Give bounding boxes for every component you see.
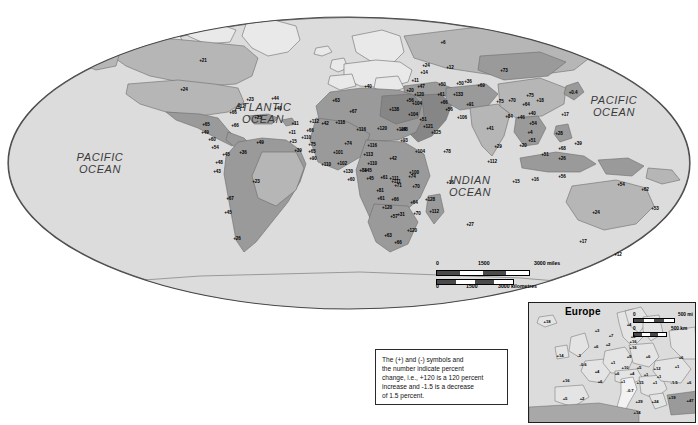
value-label: +49: [201, 131, 209, 136]
value-label: +49: [256, 141, 264, 146]
europe-value-label: +6: [615, 372, 620, 376]
value-label: +116: [356, 128, 366, 133]
value-label: +81: [376, 189, 384, 194]
map-scale-bar: 0 1500 3000 miles 0 1500 3000 kilometres: [436, 259, 554, 291]
value-label: +90: [309, 157, 317, 162]
value-label: +36: [464, 80, 472, 85]
value-label: +116: [367, 144, 377, 149]
value-label: +70: [413, 212, 421, 217]
eu-scale-mi-0: 0: [633, 312, 636, 317]
value-label: +133: [453, 93, 463, 98]
europe-value-label: +6: [687, 381, 692, 385]
value-label: +66: [231, 124, 239, 129]
value-label: +31: [397, 213, 405, 218]
value-label: +101: [333, 151, 343, 156]
value-label: +120: [414, 93, 424, 98]
europe-value-label: -0.7: [627, 389, 634, 393]
value-label: +54: [617, 183, 625, 188]
value-label: +40: [274, 107, 282, 112]
value-label: +45: [366, 177, 374, 182]
scale-miles-tick-1500: 1500: [478, 260, 490, 266]
value-label: +43: [213, 170, 221, 175]
value-label: +27: [466, 223, 474, 228]
value-label: +44: [271, 97, 279, 102]
value-label: +110: [321, 163, 331, 168]
value-label: +14: [420, 71, 428, 76]
europe-value-label: -0.6: [580, 363, 587, 367]
legend-line-5: of 1.5 percent.: [382, 391, 501, 400]
value-label: +42: [321, 122, 329, 127]
value-label: +24: [180, 88, 188, 93]
value-label: +68: [558, 147, 566, 152]
value-label: +12: [614, 253, 622, 258]
value-label: +61: [437, 93, 445, 98]
scale-miles-track: [436, 270, 530, 276]
value-label: +17: [579, 240, 587, 245]
value-label: +61: [380, 176, 388, 181]
europe-value-label: +1: [611, 361, 616, 365]
value-label: +41: [486, 127, 494, 132]
value-label: +120: [407, 229, 417, 234]
value-label: +74: [344, 142, 352, 147]
value-label: +70: [412, 185, 420, 190]
value-label: +26: [233, 237, 241, 242]
value-label: +121: [423, 125, 433, 130]
value-label: +11: [291, 122, 298, 127]
value-label: +66: [440, 101, 448, 106]
value-label: +20: [406, 89, 414, 94]
europe-value-label: +2: [606, 343, 611, 347]
value-label: +110: [301, 136, 311, 141]
europe-value-label: +3: [595, 329, 600, 333]
value-label: +45: [224, 211, 232, 216]
value-label: +51: [528, 139, 536, 144]
value-label: +120: [382, 206, 392, 211]
eu-scale-km-track: [633, 332, 667, 337]
value-label: +66: [391, 198, 399, 203]
europe-value-label: +6: [598, 380, 603, 384]
legend-line-4: increase and -1.5 is a decrease: [382, 382, 501, 391]
value-label: +21: [199, 59, 207, 64]
value-label: +45: [222, 153, 230, 158]
value-label: +63: [332, 99, 340, 104]
value-label: +25: [254, 116, 262, 121]
europe-value-label: +47: [687, 399, 694, 403]
value-label: +112: [429, 210, 439, 215]
europe-value-label: +29: [636, 400, 643, 404]
europe-value-label: +12: [654, 367, 661, 371]
scale-miles-unit: 3000 miles: [534, 260, 560, 266]
value-label: +100: [409, 171, 419, 176]
europe-value-label: +16: [630, 340, 637, 344]
europe-value-label: -3: [577, 354, 581, 358]
value-label: +63: [384, 234, 392, 239]
value-label: +12: [237, 105, 245, 110]
value-label: +128: [425, 198, 435, 203]
value-label: +15: [512, 180, 520, 185]
value-label: +71: [394, 184, 402, 189]
value-label: +74: [408, 175, 416, 180]
europe-value-label: +10: [622, 366, 629, 370]
value-label: +112: [309, 120, 319, 125]
eu-scale-km-500: 500 km: [671, 326, 687, 331]
europe-value-label: +16: [563, 379, 570, 383]
value-label: +48: [215, 161, 223, 166]
value-label: +39: [294, 149, 302, 154]
value-label: +130: [343, 170, 353, 175]
value-label: +65: [308, 150, 316, 155]
world-map-figure: PACIFIC OCEANATLANTIC OCEANINDIAN OCEANP…: [0, 0, 698, 425]
value-label: +70: [508, 99, 516, 104]
europe-value-label: +2: [580, 397, 585, 401]
value-label: +114: [396, 128, 406, 133]
value-label: +75: [308, 143, 316, 148]
value-label: +69: [477, 84, 485, 89]
value-label: +106: [457, 116, 467, 121]
value-label: +84: [505, 115, 513, 120]
value-label: +20: [519, 144, 527, 149]
value-label: +62: [641, 188, 649, 193]
eu-scale-km-0: 0: [633, 326, 636, 331]
value-label: +17: [561, 113, 569, 118]
value-label: +18: [536, 99, 544, 104]
europe-value-label: -1.5: [671, 381, 678, 385]
value-label: +102: [337, 162, 347, 167]
legend-line-2: the number indicate percent: [382, 364, 501, 373]
value-label: +54: [211, 146, 219, 151]
